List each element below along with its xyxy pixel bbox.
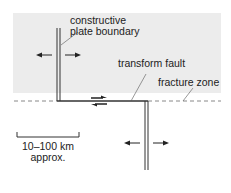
label-fracture-zone: fracture zone — [158, 76, 219, 88]
scale-bar — [17, 132, 79, 137]
transform-fault-diagram: constructive plate boundary transform fa… — [0, 0, 231, 193]
spreading-arrows-lower — [124, 141, 169, 146]
label-scale-approx: approx. — [30, 151, 65, 163]
label-plate-boundary: plate boundary — [70, 25, 140, 37]
label-transform-fault: transform fault — [118, 57, 185, 69]
